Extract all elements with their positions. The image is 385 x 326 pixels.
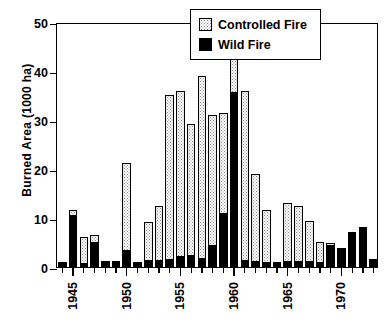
x-axis-tick <box>255 267 256 273</box>
bar-segment-controlled-fire <box>176 91 185 257</box>
bar-segment-wild-fire <box>230 93 239 267</box>
bar <box>369 259 378 267</box>
x-axis-tick-major <box>287 267 288 276</box>
chart-container: Burned Area (1000 ha) 01020304050 194519… <box>0 0 385 326</box>
x-axis-tick-major <box>341 267 342 276</box>
x-axis-tick <box>319 267 320 273</box>
bar-segment-wild-fire <box>262 263 271 267</box>
bar <box>101 261 110 267</box>
x-axis-tick-major <box>126 267 127 276</box>
bar <box>155 206 164 267</box>
bar <box>316 242 325 267</box>
bar <box>58 262 67 267</box>
x-axis-tick <box>105 267 106 273</box>
x-axis-tick <box>309 267 310 273</box>
bar <box>69 210 78 267</box>
bar <box>337 248 346 267</box>
bar-segment-controlled-fire <box>251 174 260 261</box>
bar-segment-wild-fire <box>101 261 110 267</box>
bar-segment-controlled-fire <box>90 235 99 242</box>
bar <box>144 222 153 267</box>
x-axis-tick-label: 1955 <box>173 282 187 310</box>
x-axis-tick <box>212 267 213 273</box>
bar-segment-wild-fire <box>176 257 185 267</box>
x-axis-tick-label: 1950 <box>120 282 134 310</box>
bar-segment-controlled-fire <box>316 242 325 263</box>
y-axis-tick-label: 40 <box>34 66 48 80</box>
y-axis-tick <box>50 73 57 74</box>
bar-segment-wild-fire <box>58 262 67 267</box>
bar-segment-wild-fire <box>112 261 121 267</box>
bar <box>294 206 303 267</box>
bar <box>283 203 292 267</box>
bar-segment-wild-fire <box>348 234 357 267</box>
y-axis-tick-label: 10 <box>34 213 48 227</box>
x-axis-tick <box>158 267 159 273</box>
bar-segment-controlled-fire <box>165 95 174 261</box>
legend-item-controlled-fire: Controlled Fire <box>199 16 307 33</box>
y-axis-tick-label: 20 <box>34 164 48 178</box>
bar-segment-wild-fire <box>305 262 314 267</box>
x-axis-tick <box>201 267 202 273</box>
x-axis-tick <box>373 267 374 273</box>
bar-segment-wild-fire <box>316 263 325 267</box>
y-axis-tick <box>50 220 57 221</box>
bar-segment-controlled-fire <box>198 76 207 259</box>
y-axis-tick-label: 50 <box>34 17 48 31</box>
bar-segment-controlled-fire <box>144 222 153 261</box>
bar <box>326 243 335 267</box>
legend-swatch-wild-fire <box>199 38 212 51</box>
bar-segment-wild-fire <box>359 227 368 267</box>
x-axis-tick <box>83 267 84 273</box>
bar <box>359 227 368 267</box>
x-axis-tick <box>352 267 353 273</box>
bar-segment-controlled-fire <box>262 210 271 262</box>
legend: Controlled Fire Wild Fire <box>190 9 321 60</box>
bar-segment-wild-fire <box>273 262 282 267</box>
bar-segment-wild-fire <box>90 243 99 268</box>
bar-segment-wild-fire <box>326 246 335 267</box>
bar-segment-wild-fire <box>155 261 164 267</box>
x-axis-tick <box>244 267 245 273</box>
bar-segment-controlled-fire <box>294 206 303 262</box>
x-axis-tick-label: 1965 <box>281 282 295 310</box>
bar-segment-controlled-fire <box>122 163 131 251</box>
bar-segment-wild-fire <box>133 262 142 267</box>
bar-segment-wild-fire <box>294 262 303 267</box>
bar-segment-controlled-fire <box>219 113 228 214</box>
y-axis-tick-label: 30 <box>34 115 48 129</box>
legend-label-controlled-fire: Controlled Fire <box>218 18 307 32</box>
bar-segment-wild-fire <box>337 250 346 267</box>
bar <box>348 232 357 267</box>
x-axis-tick-major <box>233 267 234 276</box>
bar-segment-wild-fire <box>369 259 378 267</box>
bar <box>80 237 89 267</box>
bar <box>122 163 131 267</box>
bar-segment-wild-fire <box>208 246 217 267</box>
bar-segment-controlled-fire <box>155 206 164 260</box>
bar <box>273 262 282 267</box>
bar <box>133 262 142 267</box>
x-axis-tick-major <box>72 267 73 276</box>
bar-segment-wild-fire <box>165 260 174 267</box>
legend-swatch-controlled-fire <box>199 18 212 31</box>
bar <box>198 76 207 267</box>
bar <box>176 91 185 267</box>
x-axis-tick <box>191 267 192 273</box>
x-axis-tick <box>94 267 95 273</box>
bar-segment-controlled-fire <box>187 124 196 256</box>
x-axis-tick <box>276 267 277 273</box>
bar-segment-wild-fire <box>219 214 228 267</box>
bar <box>208 115 217 267</box>
x-axis-tick-label: 1945 <box>66 282 80 310</box>
bar-segment-controlled-fire <box>80 237 89 264</box>
x-axis-tick <box>362 267 363 273</box>
y-axis-tick <box>50 122 57 123</box>
y-axis-tick <box>50 24 57 25</box>
x-axis-tick <box>223 267 224 273</box>
bar-segment-controlled-fire <box>305 221 314 262</box>
x-axis-tick <box>330 267 331 273</box>
bar-segment-controlled-fire <box>241 91 250 262</box>
y-axis-tick <box>50 171 57 172</box>
x-axis-tick <box>115 267 116 273</box>
